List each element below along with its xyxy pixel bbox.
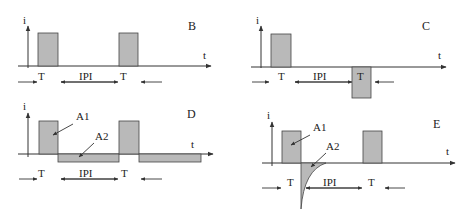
pulse-2	[363, 131, 382, 163]
timing-label-t2: T	[121, 167, 128, 179]
timing-bar: T IPI T	[262, 176, 405, 188]
y-axis-label: i	[267, 109, 270, 121]
timing-label-ipi: IPI	[313, 70, 327, 82]
timing-bar: T IPI T	[252, 70, 394, 82]
pulse-2	[119, 33, 138, 66]
timing-label-t1: T	[287, 176, 294, 188]
x-axis-label: t	[446, 145, 449, 157]
timing-bar: T IPI T	[19, 167, 162, 179]
panel-e: i t E A1 A2 T IPI T	[262, 109, 455, 209]
pulse-2	[119, 121, 139, 154]
timing-label-t2: T	[357, 70, 364, 82]
panel-d: i t D A1 A2 T IPI T	[18, 100, 213, 179]
x-axis-label: t	[438, 49, 441, 61]
pulse-1	[282, 131, 301, 163]
timing-label-ipi: IPI	[323, 176, 337, 188]
panel-c: i t C T IPI T	[251, 14, 446, 98]
timing-bar: T IPI T	[18, 70, 162, 82]
timing-label-t1: T	[278, 70, 285, 82]
timing-label-ipi: IPI	[79, 70, 93, 82]
panel-label-b: B	[188, 19, 196, 33]
timing-label-t1: T	[38, 167, 45, 179]
annotation-a2: A2	[326, 140, 339, 152]
x-axis-label: t	[203, 49, 206, 61]
timing-label-ipi: IPI	[79, 167, 93, 179]
annotation-a1: A1	[313, 121, 326, 133]
y-axis-label: i	[256, 14, 259, 26]
y-axis-label: i	[23, 14, 26, 26]
y-axis-label: i	[23, 100, 26, 112]
timing-label-t2: T	[368, 176, 375, 188]
timing-label-t1: T	[38, 70, 45, 82]
x-axis-label: t	[191, 138, 194, 150]
return-phase-1	[58, 154, 119, 162]
panel-b: i t B T IPI T	[18, 14, 211, 82]
panel-label-e: E	[433, 117, 440, 131]
pulse-1	[38, 33, 58, 66]
annotation-a1: A1	[76, 110, 89, 122]
stimulation-waveforms-figure: i t B T IPI T i t C T IPI	[0, 0, 470, 219]
pulse-positive	[271, 34, 291, 67]
panel-label-d: D	[187, 107, 196, 121]
timing-label-t2: T	[120, 70, 127, 82]
annotation-a2: A2	[95, 130, 108, 142]
panel-label-c: C	[422, 19, 430, 33]
return-phase-2	[139, 154, 201, 162]
pulse-1	[39, 121, 58, 154]
